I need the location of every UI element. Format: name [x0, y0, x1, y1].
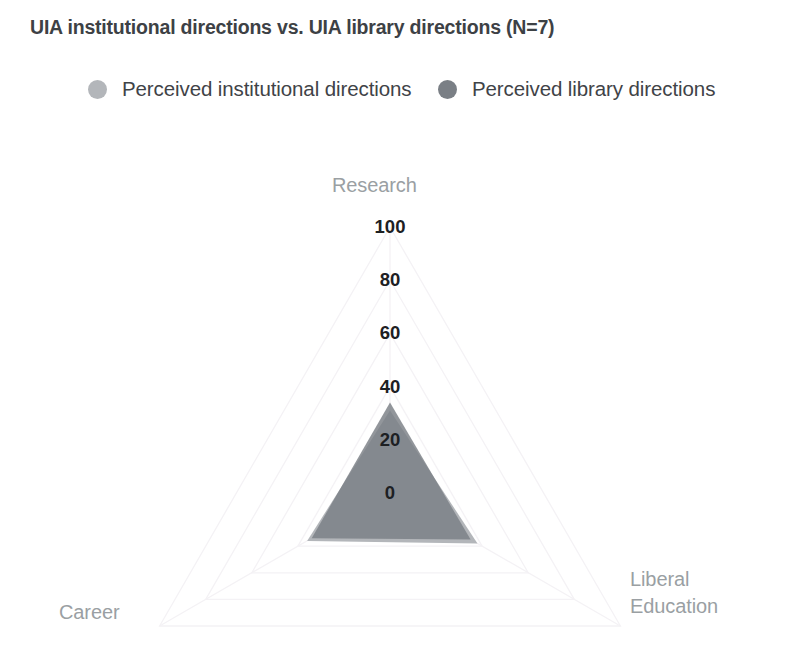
- axis-label-research: Research: [332, 172, 417, 199]
- radar-series-polygons: [307, 403, 477, 544]
- radial-tick-40: 40: [380, 376, 401, 398]
- radial-tick-80: 80: [380, 269, 401, 291]
- radial-tick-0: 0: [385, 482, 395, 504]
- radar-chart-card: UIA institutional directions vs. UIA lib…: [0, 0, 787, 659]
- axis-label-career: Career: [59, 599, 120, 626]
- radial-tick-100: 100: [375, 216, 406, 238]
- series-polygon-1: [312, 403, 471, 540]
- radial-tick-20: 20: [380, 429, 401, 451]
- radial-tick-60: 60: [380, 322, 401, 344]
- axis-label-liberal-education: Liberal Education: [630, 566, 760, 620]
